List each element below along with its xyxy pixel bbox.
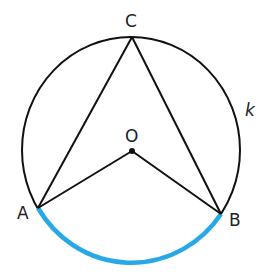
label-k: k <box>245 100 256 120</box>
label-b: B <box>229 210 241 230</box>
circle-diagram: C O A B k <box>0 0 269 280</box>
arc-ab-highlight <box>38 208 221 263</box>
segment-cb <box>132 37 221 214</box>
segment-ca <box>38 37 132 208</box>
label-c: C <box>125 11 137 31</box>
label-o: O <box>125 126 138 146</box>
segment-oa <box>38 151 132 208</box>
center-point-o <box>129 148 135 154</box>
label-a: A <box>17 203 29 223</box>
segment-ob <box>132 151 221 214</box>
